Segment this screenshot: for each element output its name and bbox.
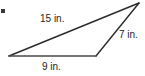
side-label-15: 15 in. xyxy=(40,13,64,24)
triangle-figure: 15 in. 7 in. 9 in. xyxy=(0,0,145,76)
side-label-9: 9 in. xyxy=(42,61,61,72)
side-label-7: 7 in. xyxy=(119,29,138,40)
